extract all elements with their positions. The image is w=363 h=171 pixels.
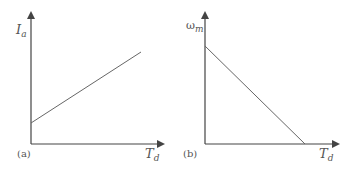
panel-a bbox=[31, 13, 163, 144]
y-axis-label-b: ωm bbox=[186, 19, 204, 34]
diagram-canvas bbox=[0, 0, 363, 171]
x-axis-label-a: Td bbox=[145, 146, 159, 163]
x-axis-label-b: Td bbox=[319, 146, 333, 163]
panel-label-a: (a) bbox=[17, 148, 31, 159]
curve-wm-vs-td bbox=[205, 46, 305, 144]
panel-b bbox=[205, 13, 338, 144]
curve-ia-vs-td bbox=[31, 52, 141, 123]
y-axis-label-a: Ia bbox=[16, 22, 27, 39]
panel-label-b: (b) bbox=[183, 148, 197, 159]
